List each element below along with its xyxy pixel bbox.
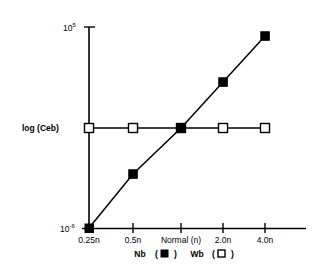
legend-entry-nb-close-paren: ) — [174, 249, 177, 259]
chart-canvas: 105 10-6 log (Ceb) 0.25n 0.5n Normal (n)… — [0, 0, 320, 267]
data-point-wb-1 — [129, 124, 138, 133]
y-axis-title: log (Ceb) — [22, 123, 59, 133]
legend-open-square-icon — [218, 250, 225, 257]
data-point-nb-4 — [261, 32, 270, 41]
legend-entry-nb-label: Nb — [134, 249, 145, 259]
data-point-wb-3 — [219, 124, 228, 133]
x-tick-label-0: 0.25n — [78, 235, 100, 245]
data-point-nb-0 — [85, 224, 94, 233]
x-tick-label-2: Normal (n) — [161, 235, 201, 245]
legend-filled-square-icon — [161, 250, 168, 257]
data-point-wb-4 — [261, 124, 270, 133]
x-tick-label-4: 4.0n — [257, 235, 274, 245]
y-axis-max-base: 10 — [63, 23, 73, 33]
data-point-nb-2 — [177, 124, 186, 133]
chart-background — [0, 0, 320, 267]
chart-figure: 105 10-6 log (Ceb) 0.25n 0.5n Normal (n)… — [0, 0, 320, 267]
y-axis-min-exponent: -6 — [69, 223, 75, 229]
legend-entry-wb-open-paren: ( — [212, 249, 215, 259]
y-axis-min-base: 10 — [60, 224, 70, 234]
legend-entry-wb-close-paren: ) — [231, 249, 234, 259]
x-tick-label-1: 0.5n — [125, 235, 142, 245]
data-point-nb-3 — [219, 78, 228, 87]
data-point-wb-0 — [85, 124, 94, 133]
legend-entry-wb-label: Wb — [190, 249, 203, 259]
x-tick-label-3: 2.0n — [215, 235, 232, 245]
legend-entry-nb-open-paren: ( — [155, 249, 158, 259]
data-point-nb-1 — [129, 170, 138, 179]
